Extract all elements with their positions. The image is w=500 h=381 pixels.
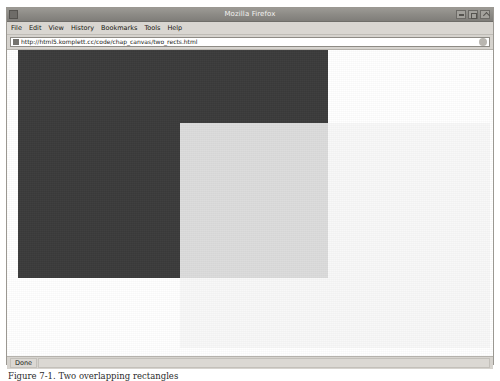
status-text: Done [10,358,37,368]
browser-window: Mozilla Firefox File Edit View History B… [6,7,494,365]
light-rectangle [180,123,490,348]
menubar: File Edit View History Bookmarks Tools H… [7,22,493,35]
status-filler [38,358,490,368]
navigation-toolbar: http://html5.komplett.cc/code/chap_canva… [7,35,493,49]
maximize-button[interactable] [468,10,478,19]
window-title: Mozilla Firefox [7,8,493,21]
page-viewport [7,49,493,356]
html5-canvas [7,50,493,356]
window-controls [456,10,490,19]
menu-help[interactable]: Help [167,22,182,34]
menu-history[interactable]: History [71,22,94,34]
menu-edit[interactable]: Edit [29,22,42,34]
book-page: Mozilla Firefox File Edit View History B… [0,0,500,381]
firefox-icon [9,10,18,19]
url-bar[interactable]: http://html5.komplett.cc/code/chap_canva… [10,37,490,47]
minimize-button[interactable] [456,10,466,19]
menu-view[interactable]: View [48,22,63,34]
go-arrow-icon[interactable] [479,38,487,46]
url-input[interactable]: http://html5.komplett.cc/code/chap_canva… [21,37,479,47]
figure-caption: Figure 7-1. Two overlapping rectangles [8,371,488,381]
menu-file[interactable]: File [11,22,22,34]
titlebar[interactable]: Mozilla Firefox [7,8,493,22]
statusbar: Done [7,356,493,369]
menu-tools[interactable]: Tools [144,22,160,34]
close-button[interactable] [480,10,490,19]
page-icon [13,39,19,45]
menu-bookmarks[interactable]: Bookmarks [101,22,137,34]
